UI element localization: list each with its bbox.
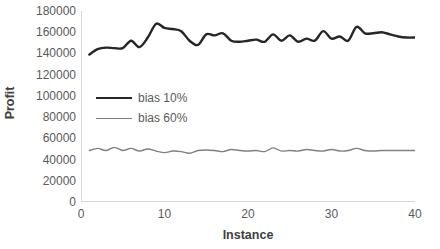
legend-label: bias 10% bbox=[138, 91, 187, 105]
y-axis-tick-label: 60000 bbox=[4, 132, 76, 144]
legend-swatch-icon bbox=[96, 97, 132, 99]
chart-legend: bias 10%bias 60% bbox=[96, 88, 187, 128]
legend-item: bias 10% bbox=[96, 88, 187, 108]
x-axis-tick-label: 20 bbox=[228, 208, 268, 220]
series-line-bias-60- bbox=[89, 147, 415, 153]
y-axis-tick-label: 120000 bbox=[4, 69, 76, 81]
y-axis-tick-label: 20000 bbox=[4, 175, 76, 187]
series-line-bias-10- bbox=[89, 23, 415, 54]
y-axis-tick-label: 40000 bbox=[4, 154, 76, 166]
x-axis-tick-label: 30 bbox=[312, 208, 352, 220]
x-axis-tick-label: 0 bbox=[61, 208, 101, 220]
legend-swatch-icon bbox=[96, 118, 132, 119]
x-axis-title: Instance bbox=[81, 228, 415, 242]
x-axis-tick-label: 10 bbox=[145, 208, 185, 220]
x-axis-tick-label: 40 bbox=[395, 208, 435, 220]
y-axis-tick-label: 160000 bbox=[4, 26, 76, 38]
y-axis-tick-label: 100000 bbox=[4, 90, 76, 102]
legend-label: bias 60% bbox=[138, 111, 187, 125]
y-axis-tick-label: 0 bbox=[4, 196, 76, 208]
legend-item: bias 60% bbox=[96, 108, 187, 128]
y-axis-tick-label: 80000 bbox=[4, 111, 76, 123]
y-axis-tick-label: 180000 bbox=[4, 5, 76, 17]
chart-container: Profit Instance 180000160000140000120000… bbox=[0, 0, 440, 249]
y-axis-tick-label: 140000 bbox=[4, 47, 76, 59]
